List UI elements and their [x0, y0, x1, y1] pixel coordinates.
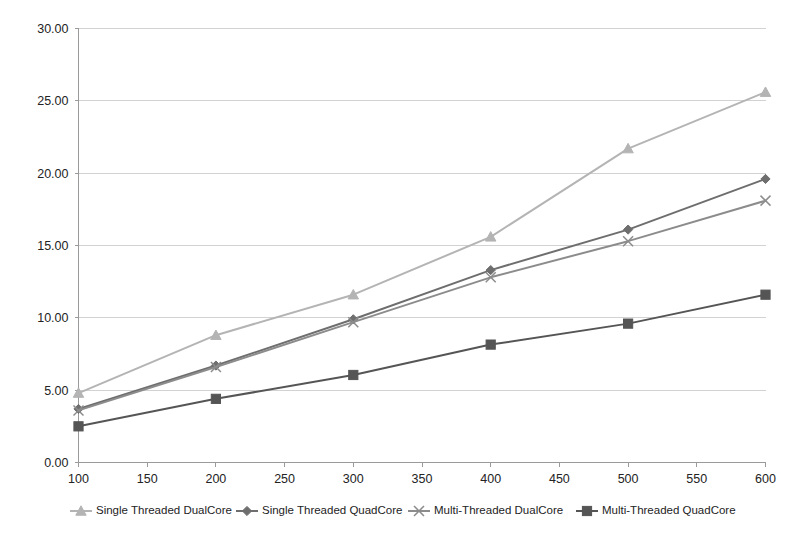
- x-tick-label: 400: [480, 472, 501, 486]
- x-tick-label: 250: [274, 472, 295, 486]
- y-tick-label: 5.00: [44, 384, 68, 398]
- x-tick-label: 300: [343, 472, 364, 486]
- data-point-marker-square: [582, 506, 591, 515]
- chart-container: 0.005.0010.0015.0020.0025.0030.00 100150…: [0, 0, 790, 544]
- x-tick-label: 100: [68, 472, 89, 486]
- data-point-marker-square: [624, 319, 633, 328]
- data-point-marker-square: [486, 340, 495, 349]
- x-tick-label: 500: [618, 472, 639, 486]
- legend-item-label: Multi-Threaded DualCore: [434, 504, 563, 516]
- legend-item-label: Single Threaded DualCore: [96, 504, 232, 516]
- x-tick-label: 450: [549, 472, 570, 486]
- x-tick-label: 600: [755, 472, 776, 486]
- legend-item-label: Multi-Threaded QuadCore: [602, 504, 736, 516]
- x-tick-label: 150: [137, 472, 158, 486]
- y-tick-label: 10.00: [37, 311, 68, 325]
- y-tick-label: 20.00: [37, 167, 68, 181]
- y-tick-label: 0.00: [44, 456, 68, 470]
- data-point-marker-square: [74, 422, 83, 431]
- x-tick-label: 550: [686, 472, 707, 486]
- x-tick-label: 350: [412, 472, 433, 486]
- y-tick-label: 25.00: [37, 94, 68, 108]
- line-chart: 0.005.0010.0015.0020.0025.0030.00 100150…: [0, 0, 790, 544]
- data-point-marker-square: [349, 370, 358, 379]
- y-tick-label: 30.00: [37, 22, 68, 36]
- data-point-marker-square: [761, 290, 770, 299]
- legend-item-label: Single Threaded QuadCore: [262, 504, 402, 516]
- y-tick-label: 15.00: [37, 239, 68, 253]
- data-point-marker-square: [211, 394, 220, 403]
- x-tick-label: 200: [205, 472, 226, 486]
